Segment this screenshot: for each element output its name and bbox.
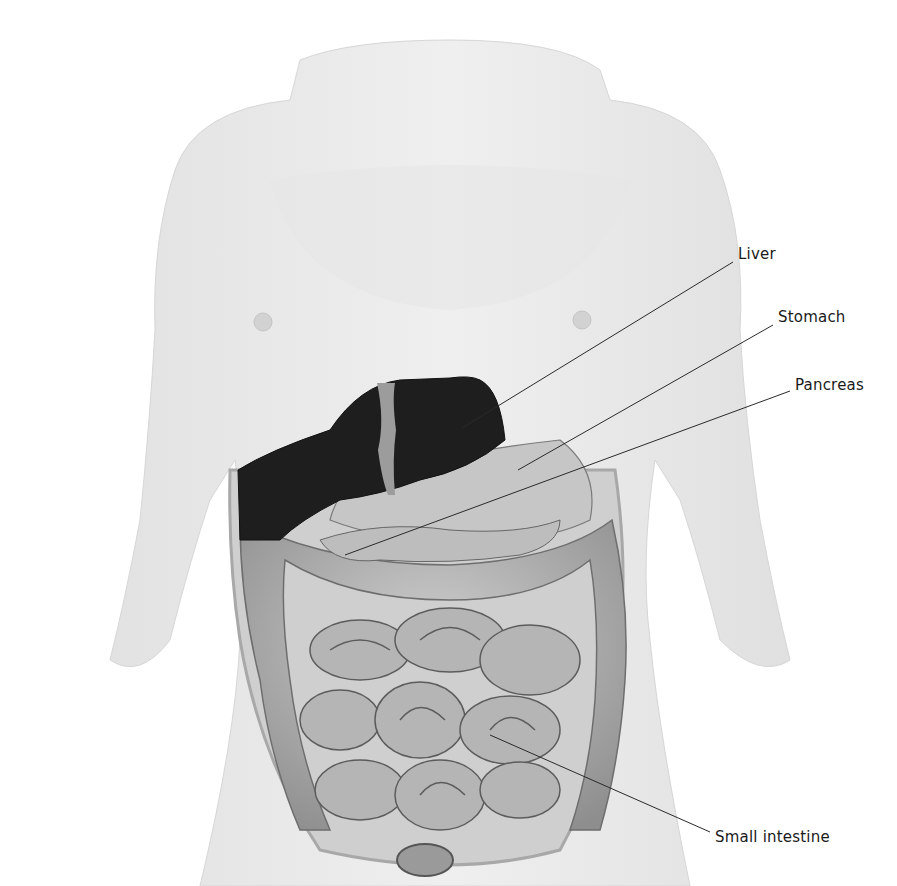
rectum [397, 844, 453, 876]
left-nipple [254, 313, 272, 331]
label-small-intestine: Small intestine [715, 828, 830, 846]
small-intestine [300, 608, 580, 830]
torso-illustration [0, 0, 897, 886]
label-liver: Liver [738, 245, 776, 263]
label-stomach: Stomach [778, 308, 846, 326]
label-pancreas: Pancreas [795, 376, 864, 394]
anatomy-figure: Liver Stomach Pancreas Small intestine [0, 0, 897, 886]
right-nipple [573, 311, 591, 329]
